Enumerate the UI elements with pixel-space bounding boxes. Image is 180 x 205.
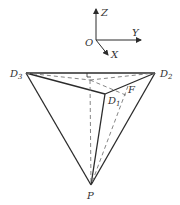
edge-d3-d1	[26, 73, 105, 94]
dashed-e-f	[90, 80, 128, 96]
label-d1: D1	[107, 95, 121, 108]
edge-d1-p	[91, 94, 105, 185]
coordinate-axes: Z Y X O	[85, 7, 141, 60]
edge-d3-p	[26, 73, 91, 185]
label-d2: D2	[159, 68, 173, 81]
label-d3: D3	[9, 68, 23, 81]
dashed-d3-e	[26, 73, 90, 80]
x-axis-label: X	[110, 49, 119, 60]
pyramid-diagram: Z Y X O D3 D2 D1 F P	[0, 0, 180, 205]
dashed-e-p	[90, 80, 91, 185]
label-p: P	[86, 190, 94, 201]
label-f: F	[127, 84, 136, 95]
x-axis	[96, 40, 108, 55]
origin-label: O	[85, 37, 93, 48]
y-axis-label: Y	[132, 27, 140, 38]
edge-d2-p	[91, 73, 155, 185]
dashed-edges	[26, 73, 155, 185]
z-axis-label: Z	[100, 7, 109, 18]
